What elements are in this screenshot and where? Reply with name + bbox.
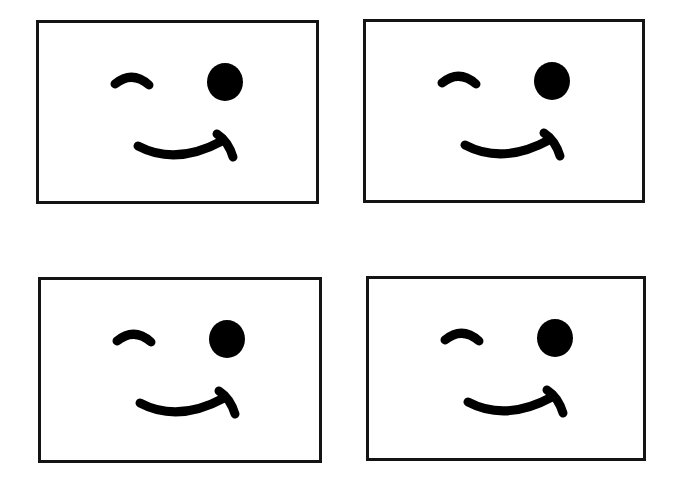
open-eye-icon [209,320,245,358]
winking-eye-icon [115,77,149,85]
card-bottom-left [38,277,322,463]
winking-face-icon [363,19,653,209]
winking-eye-icon [442,76,476,84]
winking-face-icon [36,20,326,210]
winking-face-icon [38,277,328,467]
open-eye-icon [207,63,243,101]
winking-eye-icon [117,334,151,342]
open-eye-icon [537,319,573,357]
smile-mouth-icon [140,398,224,412]
smile-mouth-icon [468,397,552,411]
smile-mouth-icon [138,141,222,155]
card-top-left [36,20,319,204]
card-top-right [363,19,645,203]
smile-mouth-icon [465,140,549,154]
winking-face-icon [366,276,656,466]
winking-eye-icon [445,333,479,341]
card-bottom-right [366,276,646,461]
open-eye-icon [534,62,570,100]
